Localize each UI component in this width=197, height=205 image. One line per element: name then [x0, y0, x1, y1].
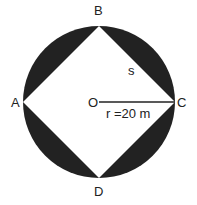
- label-o: O: [88, 95, 98, 110]
- label-b: B: [94, 3, 103, 18]
- label-a: A: [11, 95, 20, 110]
- label-d: D: [94, 184, 103, 199]
- label-c: C: [177, 95, 186, 110]
- radius-label: r =20 m: [106, 106, 150, 121]
- side-label: s: [128, 63, 135, 78]
- circle-square-diagram: B D A C O s r =20 m: [0, 0, 197, 205]
